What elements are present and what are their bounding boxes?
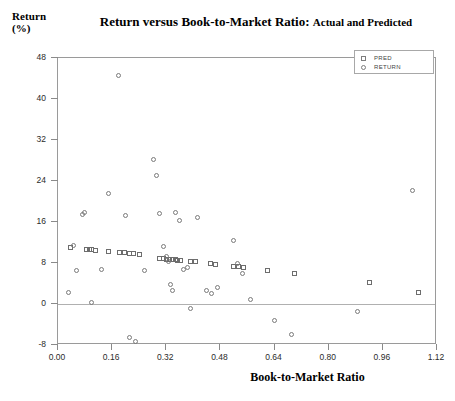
data-point-pred (131, 251, 136, 256)
chart-title: Return versus Book-to-Market Ratio: Actu… (62, 14, 450, 30)
plot-area (57, 57, 436, 344)
data-point-pred (292, 271, 297, 276)
legend-label-pred: PRED (374, 55, 392, 61)
legend-item-return: RETURN (361, 62, 401, 72)
data-point-return (209, 291, 214, 296)
data-point-return (151, 157, 156, 162)
data-point-return (106, 191, 111, 196)
data-point-return (161, 244, 166, 249)
data-point-return (127, 335, 132, 340)
x-tick-label: 0.80 (308, 352, 348, 362)
y-tick-label: 40 (6, 93, 46, 103)
data-point-return (195, 215, 200, 220)
y-tick-mark (51, 57, 58, 58)
x-tick-mark (436, 344, 437, 350)
data-point-return (154, 173, 159, 178)
data-point-return (133, 339, 138, 344)
data-point-return (164, 254, 169, 259)
y-tick-mark (51, 221, 58, 222)
data-point-return (231, 238, 236, 243)
data-point-return (177, 218, 182, 223)
data-point-return (123, 213, 128, 218)
data-point-return (74, 268, 79, 273)
y-tick-label: 24 (6, 175, 46, 185)
y-axis-title: Return (%) (12, 10, 46, 34)
data-point-return (188, 306, 193, 311)
data-point-return (272, 318, 277, 323)
x-tick-mark (165, 344, 166, 350)
y-tick-mark (51, 98, 58, 99)
data-point-return (289, 332, 294, 337)
data-point-pred (213, 262, 218, 267)
x-tick-mark (111, 344, 112, 350)
data-point-return (157, 211, 162, 216)
zero-reference-line (58, 304, 435, 305)
y-tick-label: -8 (6, 339, 46, 349)
x-tick-label: 0.16 (91, 352, 131, 362)
x-tick-label: 0.48 (199, 352, 239, 362)
data-point-return (116, 73, 121, 78)
scatter-chart: Return (%) Return versus Book-to-Market … (0, 0, 455, 401)
y-tick-label: 0 (6, 298, 46, 308)
x-tick-label: 0.64 (254, 352, 294, 362)
data-point-return (170, 288, 175, 293)
x-tick-label: 0.96 (362, 352, 402, 362)
data-point-return (185, 265, 190, 270)
y-tick-mark (51, 180, 58, 181)
data-point-pred (265, 268, 270, 273)
chart-legend: PRED RETURN (354, 50, 434, 74)
data-point-return (99, 267, 104, 272)
y-tick-mark (51, 139, 58, 140)
x-tick-mark (57, 344, 58, 350)
x-tick-label: 1.12 (416, 352, 455, 362)
y-tick-label: 48 (6, 52, 46, 62)
x-tick-label: 0.32 (145, 352, 185, 362)
square-marker-icon (361, 56, 366, 61)
chart-title-main: Return versus Book-to-Market Ratio: (100, 14, 310, 29)
data-point-pred (241, 265, 246, 270)
y-tick-mark (51, 262, 58, 263)
data-point-pred (137, 252, 142, 257)
data-point-return (168, 282, 173, 287)
legend-label-return: RETURN (374, 64, 401, 70)
x-tick-mark (382, 344, 383, 350)
data-point-return (215, 285, 220, 290)
data-point-return (235, 261, 240, 266)
data-point-return (173, 210, 178, 215)
data-point-return (166, 259, 171, 264)
data-point-return (355, 309, 360, 314)
data-point-return (240, 271, 245, 276)
data-point-pred (178, 258, 183, 263)
data-point-return (82, 210, 87, 215)
data-point-pred (416, 290, 421, 295)
data-point-return (66, 290, 71, 295)
x-tick-mark (219, 344, 220, 350)
circle-marker-icon (361, 65, 366, 70)
data-point-return (248, 297, 253, 302)
x-axis-title: Book-to-Market Ratio (0, 370, 455, 385)
chart-title-suffix: Actual and Predicted (313, 16, 412, 28)
data-point-return (142, 268, 147, 273)
data-point-pred (106, 249, 111, 254)
y-tick-label: 16 (6, 216, 46, 226)
data-point-pred (193, 259, 198, 264)
y-tick-label: 32 (6, 134, 46, 144)
data-point-pred (93, 248, 98, 253)
x-tick-mark (328, 344, 329, 350)
data-point-return (71, 243, 76, 248)
x-tick-mark (274, 344, 275, 350)
data-point-return (410, 188, 415, 193)
y-tick-label: 8 (6, 257, 46, 267)
data-point-pred (367, 280, 372, 285)
y-tick-mark (51, 303, 58, 304)
x-tick-label: 0.00 (37, 352, 77, 362)
